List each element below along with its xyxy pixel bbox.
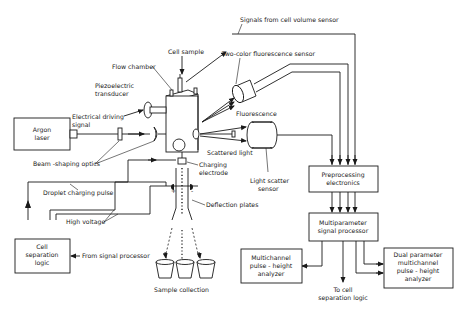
svg-text:Preprocessing: Preprocessing <box>321 171 364 179</box>
charging-label-1: Charging <box>199 161 227 169</box>
multichannel-analyzer-box: Multichannel pulse - height analyzer <box>241 249 302 283</box>
to-cell-label-1: To cell <box>332 286 352 293</box>
preprocessing-electronics-box: Preprocessing electronics <box>309 166 378 192</box>
elec-drive-label-2: signal <box>72 121 91 129</box>
high-voltage-label: High voltage <box>66 218 105 226</box>
argon-label: Argon <box>33 126 51 134</box>
piezo-label-1: Piezoelectric <box>95 82 135 89</box>
elec-drive-label-1: Electrical driving <box>72 113 124 121</box>
plus-sign: + <box>171 187 176 194</box>
laser-label: laser <box>34 134 50 141</box>
svg-text:analyzer: analyzer <box>405 275 432 283</box>
svg-text:analyzer: analyzer <box>258 270 285 278</box>
piezo-label-2: transducer <box>95 90 129 97</box>
deflection-label: Deflection plates <box>206 201 258 209</box>
cytometer-diagram: Argon laser Electrical driving signal Pi… <box>0 0 468 313</box>
cell-sample-label: Cell sample <box>168 48 204 56</box>
svg-text:logic: logic <box>35 259 50 267</box>
flow-chamber <box>166 74 199 152</box>
cell-separation-logic-box: Cell separation logic <box>15 239 70 273</box>
beam-optic-1 <box>118 128 122 140</box>
piezo-transducer <box>144 102 166 118</box>
svg-text:pulse - height: pulse - height <box>397 267 440 275</box>
svg-text:pulse - height: pulse - height <box>250 262 293 270</box>
charging-electrode <box>178 152 186 164</box>
to-cell-label-2: separation logic <box>318 294 368 302</box>
two-color-label: Two-color fluorescence sensor <box>221 50 315 57</box>
sample-collection-label: Sample collection <box>154 286 209 294</box>
svg-text:Cell: Cell <box>36 243 48 250</box>
dual-parameter-analyzer-box: Dual parameter multichannel pulse - heig… <box>384 248 453 288</box>
light-scatter-label-2: sensor <box>258 185 279 192</box>
svg-text:separation: separation <box>26 251 59 259</box>
beam-lens <box>154 127 157 141</box>
flow-chamber-label: Flow chamber <box>112 63 156 70</box>
droplet-stream <box>165 168 199 262</box>
beam-shaping-label: Beam -shaping optics <box>33 160 100 168</box>
svg-text:Dual parameter: Dual parameter <box>394 251 443 259</box>
svg-text:Multiparameter: Multiparameter <box>319 219 367 227</box>
charging-label-2: electrode <box>199 169 228 176</box>
minus-sign: - <box>191 187 193 194</box>
svg-text:Multichannel: Multichannel <box>251 254 291 261</box>
multiparameter-processor-box: Multiparameter signal processor <box>309 213 378 241</box>
light-scatter-sensor <box>247 122 277 148</box>
svg-text:signal processor: signal processor <box>318 227 369 235</box>
scattered-light-label: Scattered light <box>207 149 253 157</box>
fluorescence-label: Fluorescence <box>236 110 277 117</box>
svg-text:multichannel: multichannel <box>398 259 439 266</box>
signals-volume-label: Signals from cell volume sensor <box>240 16 339 24</box>
light-scatter-label-1: Light scatter <box>250 177 289 185</box>
droplet-pulse-label: Droplet charging pulse <box>43 189 114 197</box>
svg-text:electronics: electronics <box>326 179 360 186</box>
argon-laser: Argon laser <box>14 118 77 150</box>
from-signal-label: From signal processor <box>82 252 150 260</box>
sample-collection-cups <box>156 260 215 279</box>
